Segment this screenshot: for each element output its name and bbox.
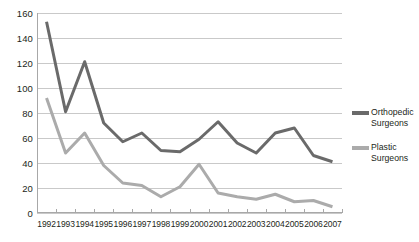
line-chart: 020406080100120140160 199219931994199519… (0, 0, 419, 242)
legend-item-plastic-surgeons: Plastic Surgeons (352, 142, 418, 164)
x-tick-label: 1998 (152, 219, 171, 229)
x-tick-label: 1997 (133, 219, 152, 229)
series-lines (37, 13, 342, 213)
legend-label-orthopedic: Orthopedic Surgeons (371, 107, 414, 129)
x-tick-label: 2002 (228, 219, 247, 229)
legend-label-plastic-line2: Surgeons (371, 153, 408, 163)
x-tick-label: 1999 (171, 219, 190, 229)
legend-label-plastic: Plastic Surgeons (371, 142, 408, 164)
y-tick-label: 60 (22, 133, 33, 144)
x-tick-label: 2000 (190, 219, 209, 229)
y-tick-label: 20 (22, 183, 33, 194)
x-tick-label: 2004 (266, 219, 285, 229)
y-tick-label: 160 (17, 8, 33, 19)
y-tick-label: 100 (17, 83, 33, 94)
x-tick-label: 2006 (304, 219, 323, 229)
legend-swatch-plastic-icon (352, 146, 369, 150)
x-tick-label: 1996 (114, 219, 133, 229)
plot-area: 020406080100120140160 199219931994199519… (37, 13, 342, 213)
x-tick-label: 2001 (209, 219, 228, 229)
x-tick-label: 1992 (37, 219, 56, 229)
x-tick-label: 1995 (94, 219, 113, 229)
series-line-plastic-surgeons (47, 98, 333, 207)
y-tick-label: 40 (22, 158, 33, 169)
x-tick-label: 2005 (285, 219, 304, 229)
x-tick-label: 2003 (247, 219, 266, 229)
y-tick-label: 120 (17, 58, 33, 69)
x-tick-label: 2007 (323, 219, 342, 229)
legend: Orthopedic Surgeons Plastic Surgeons (352, 107, 418, 177)
legend-swatch-orthopedic-icon (352, 111, 369, 115)
legend-label-orthopedic-line1: Orthopedic (371, 107, 414, 117)
y-tick-label: 140 (17, 33, 33, 44)
legend-item-orthopedic-surgeons: Orthopedic Surgeons (352, 107, 418, 129)
legend-label-orthopedic-line2: Surgeons (371, 118, 408, 128)
x-tick-label: 1993 (56, 219, 75, 229)
x-tick-label: 1994 (75, 219, 94, 229)
x-tick-mark (342, 209, 343, 213)
y-tick-label: 0 (28, 208, 33, 219)
gridline (37, 213, 342, 214)
y-tick-label: 80 (22, 108, 33, 119)
legend-label-plastic-line1: Plastic (371, 142, 397, 152)
